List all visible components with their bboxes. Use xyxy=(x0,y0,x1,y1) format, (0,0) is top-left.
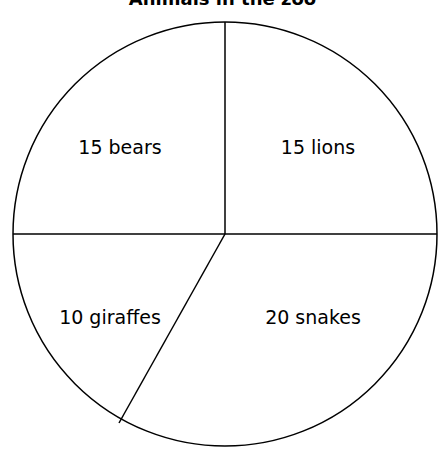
slice-label-bears: 15 bears xyxy=(78,136,161,158)
pie-chart: 15 lions 20 snakes 10 giraffes 15 bears xyxy=(0,0,445,467)
slice-label-lions: 15 lions xyxy=(281,136,355,158)
slice-label-giraffes: 10 giraffes xyxy=(59,306,161,328)
slice-label-snakes: 20 snakes xyxy=(265,306,361,328)
